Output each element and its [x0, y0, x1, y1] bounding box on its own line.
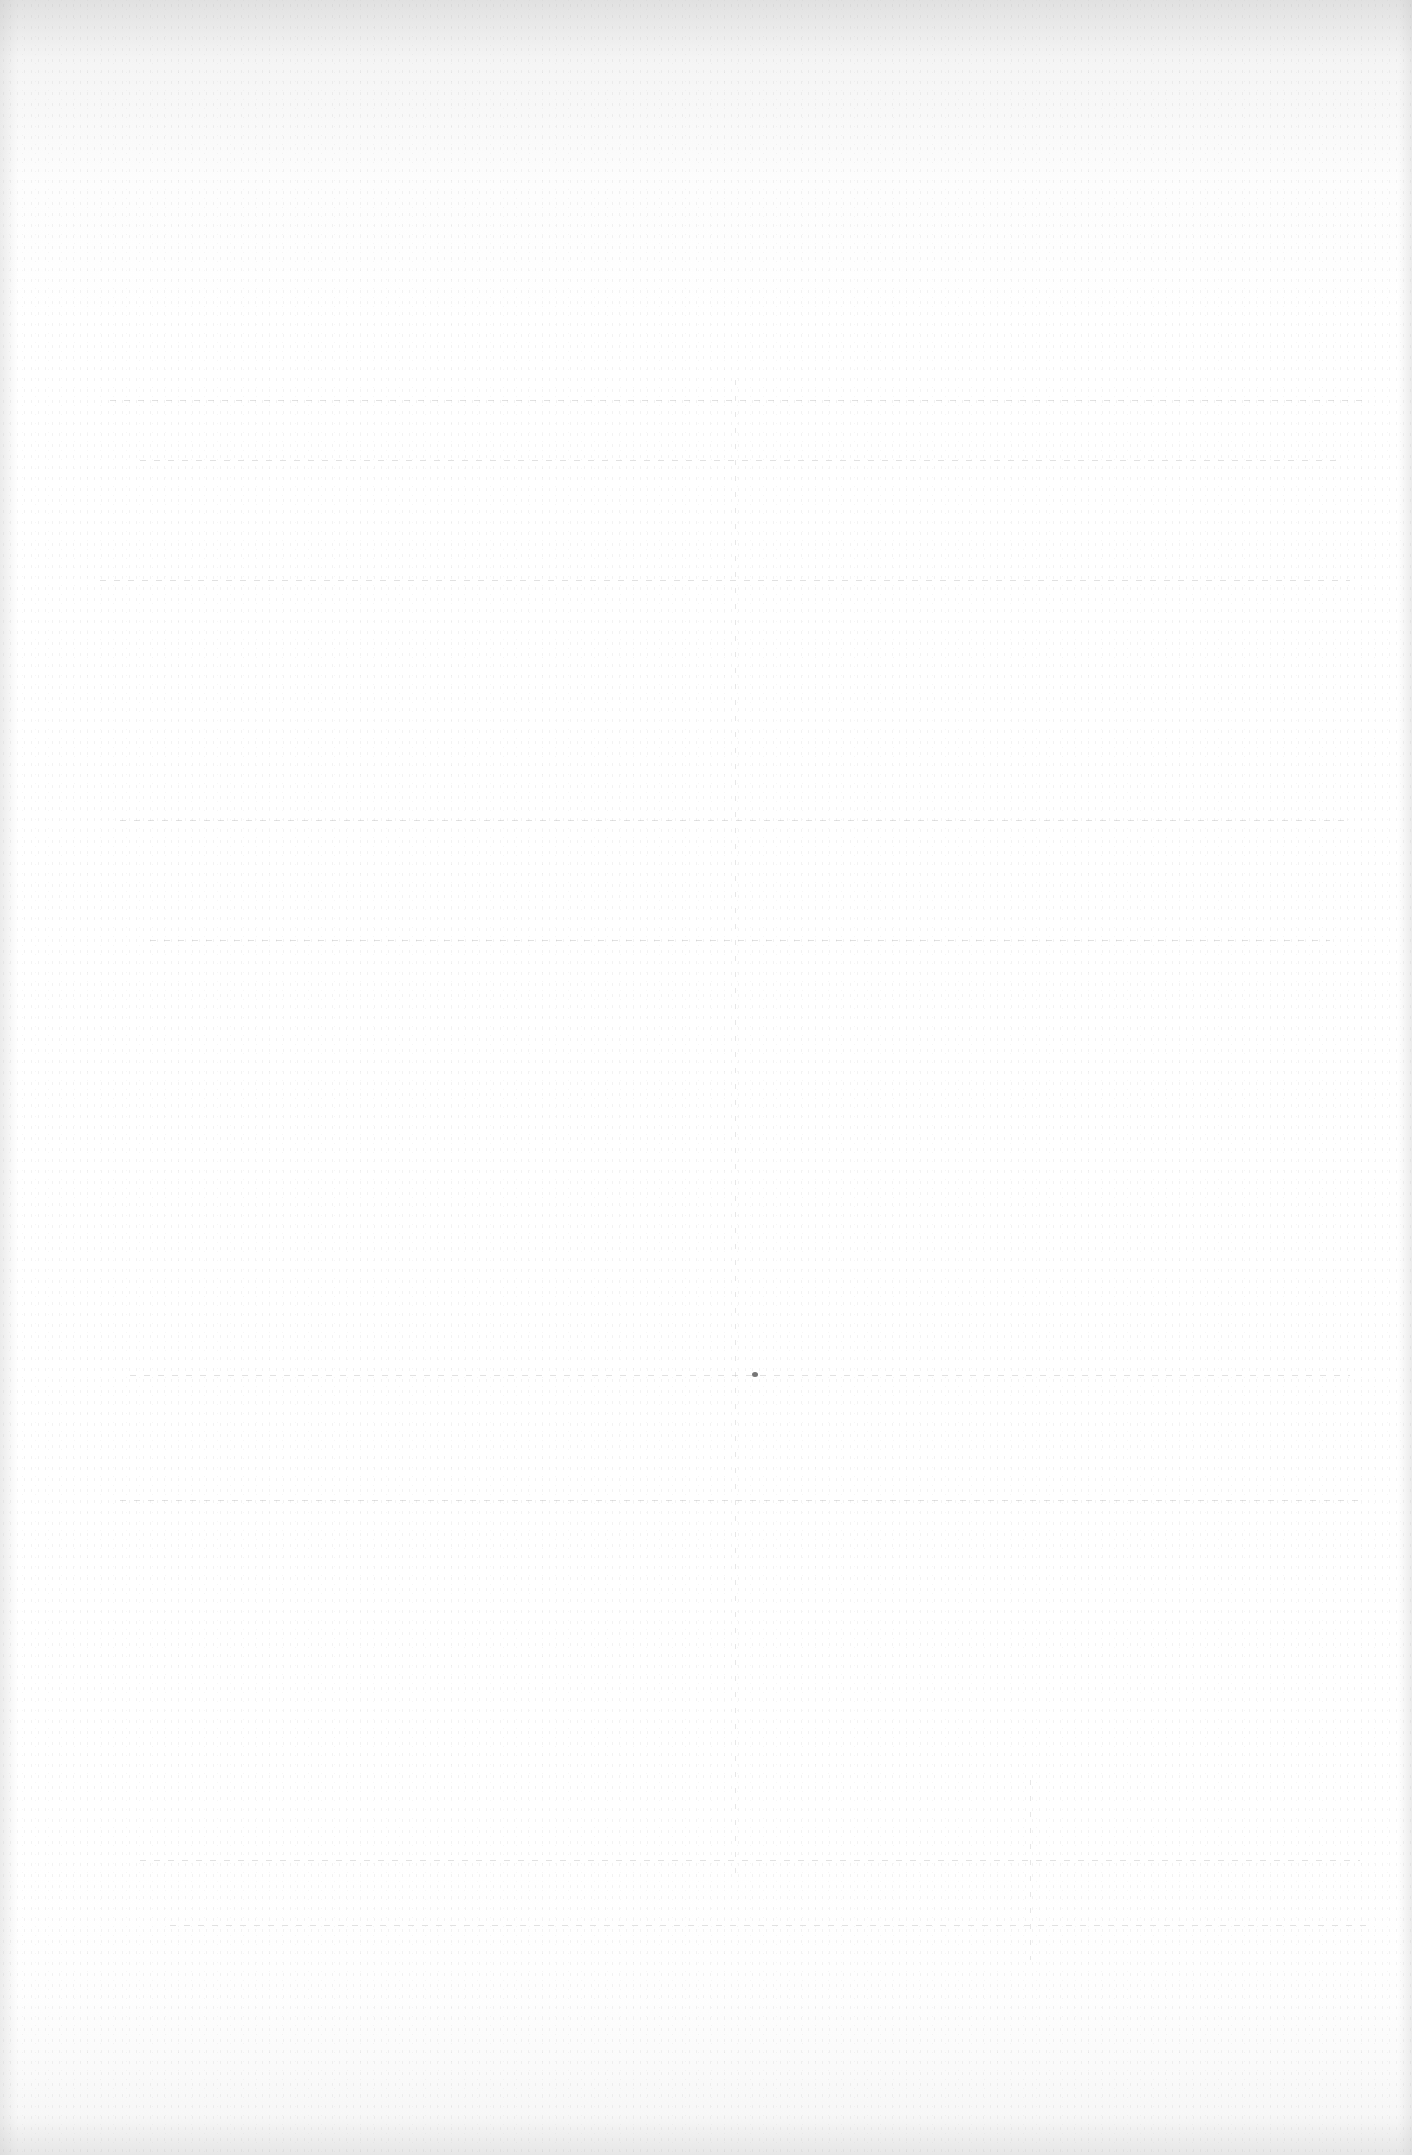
blank-scanned-page: [0, 0, 1412, 2155]
scan-noise-texture: [0, 0, 1412, 2155]
ink-speck: [752, 1372, 758, 1377]
